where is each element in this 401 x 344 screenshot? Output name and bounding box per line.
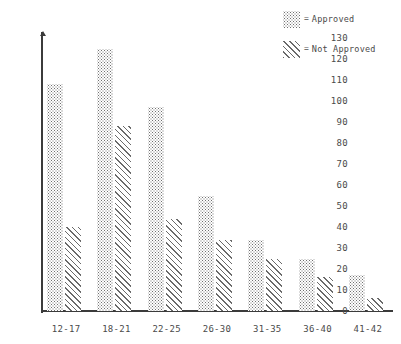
x-tick-label: 41-42 bbox=[343, 325, 393, 334]
y-tick-label: 130 bbox=[324, 34, 348, 43]
bar-approved-36-40 bbox=[299, 259, 315, 312]
bar-not-approved-26-30 bbox=[216, 240, 232, 311]
x-tick-label: 22-25 bbox=[142, 325, 192, 334]
bar-approved-41-42 bbox=[349, 275, 365, 311]
x-tick-label: 31-35 bbox=[242, 325, 292, 334]
y-tick-label: 70 bbox=[324, 160, 348, 169]
y-tick-label: 30 bbox=[324, 244, 348, 253]
bar-approved-26-30 bbox=[198, 196, 214, 312]
plot-area: 1301201101009080706050403020100 12-1718-… bbox=[41, 32, 393, 312]
bar-not-approved-36-40 bbox=[317, 277, 333, 311]
x-tick-label: 26-30 bbox=[192, 325, 242, 334]
y-tick-label: 80 bbox=[324, 139, 348, 148]
x-tick-label: 36-40 bbox=[292, 325, 342, 334]
bar-not-approved-12-17 bbox=[65, 227, 81, 311]
y-tick-label: 90 bbox=[324, 118, 348, 127]
bar-not-approved-18-21 bbox=[115, 126, 131, 311]
bar-approved-18-21 bbox=[97, 49, 113, 312]
bar-not-approved-41-42 bbox=[367, 298, 383, 311]
y-tick-label: 100 bbox=[324, 97, 348, 106]
x-tick-label: 18-21 bbox=[91, 325, 141, 334]
bar-approved-22-25 bbox=[148, 107, 164, 311]
y-tick-label: 50 bbox=[324, 202, 348, 211]
legend-item-approved: = Approved bbox=[283, 8, 401, 30]
y-tick-label: 110 bbox=[324, 76, 348, 85]
y-axis bbox=[41, 32, 43, 313]
y-axis-arrow-icon bbox=[40, 31, 46, 36]
bar-not-approved-22-25 bbox=[166, 219, 182, 311]
legend-equals-approved: = bbox=[304, 15, 309, 23]
bar-approved-12-17 bbox=[47, 84, 63, 311]
bar-chart: = Approved = Not Approved 13012011010090… bbox=[0, 0, 401, 344]
bar-not-approved-31-35 bbox=[266, 259, 282, 312]
x-tick-label: 12-17 bbox=[41, 325, 91, 334]
y-tick-label: 60 bbox=[324, 181, 348, 190]
y-tick-label: 120 bbox=[324, 55, 348, 64]
legend-label-approved: Approved bbox=[312, 14, 355, 24]
legend-swatch-approved-icon bbox=[283, 11, 300, 28]
y-tick-label: 20 bbox=[324, 265, 348, 274]
y-tick-label: 40 bbox=[324, 223, 348, 232]
bar-approved-31-35 bbox=[248, 240, 264, 311]
